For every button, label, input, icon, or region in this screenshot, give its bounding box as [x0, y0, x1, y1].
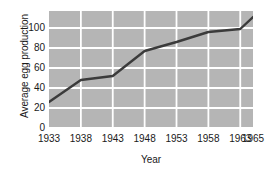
- x-axis-tick-label: 1933: [38, 133, 60, 144]
- x-axis-tick-label: 1953: [165, 133, 187, 144]
- x-axis-tick-label: 1943: [102, 133, 124, 144]
- chart-figure: Average egg production 020406080100 1933…: [0, 0, 272, 176]
- x-axis-title: Year: [49, 154, 253, 166]
- x-axis-tick-label: 1948: [134, 133, 156, 144]
- x-axis-tick-label: 1958: [197, 133, 219, 144]
- x-axis-tick-labels: 19331938194319481953195819631965: [0, 0, 272, 176]
- x-axis-tick-label: 1938: [70, 133, 92, 144]
- x-axis-tick-label: 1965: [242, 133, 264, 144]
